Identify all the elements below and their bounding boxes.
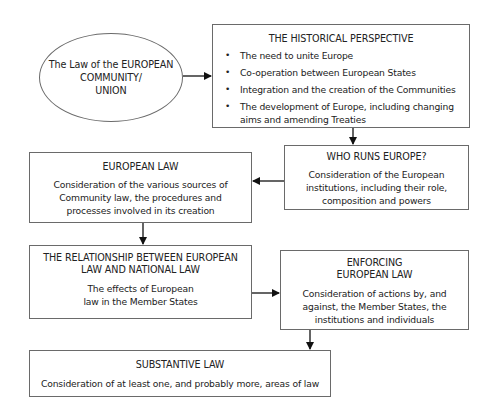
- historical-bullet-list: •The need to unite Europe •Co-operation …: [219, 49, 463, 126]
- start-text-line-3: UNION: [49, 84, 174, 97]
- substantive-title: SUBSTANTIVE LAW: [34, 359, 326, 371]
- enforcing-title-line-2: EUROPEAN LAW: [285, 269, 464, 281]
- bullet-icon: •: [225, 49, 230, 62]
- european-law-box: EUROPEAN LAW Consideration of the variou…: [29, 152, 252, 223]
- start-ellipse-node: The Law of the EUROPEAN COMMUNITY/ UNION: [39, 33, 183, 122]
- relationship-title: THE RELATIONSHIP BETWEEN EUROPEAN LAW AN…: [32, 252, 249, 276]
- start-text-line-2: COMMUNITY/: [49, 71, 174, 84]
- bullet-icon: •: [225, 66, 230, 79]
- european-law-title: EUROPEAN LAW: [34, 161, 247, 173]
- start-text-line-1: The Law of the EUROPEAN: [49, 58, 174, 71]
- bullet-icon: •: [225, 83, 230, 96]
- bullet-icon: •: [225, 100, 230, 113]
- relationship-body: The effects of European law in the Membe…: [32, 282, 249, 308]
- historical-perspective-box: THE HISTORICAL PERSPECTIVE •The need to …: [212, 24, 470, 128]
- historical-title: THE HISTORICAL PERSPECTIVE: [219, 33, 463, 45]
- bullet-item: •Integration and the creation of the Com…: [219, 83, 463, 96]
- substantive-body: Consideration of at least one, and proba…: [34, 377, 326, 390]
- enforcing-body: Consideration of actions by, and against…: [285, 287, 464, 326]
- substantive-law-box: SUBSTANTIVE LAW Consideration of at leas…: [29, 350, 331, 397]
- bullet-item: •The development of Europe, including ch…: [219, 100, 463, 126]
- european-law-body: Consideration of the various sources of …: [34, 178, 247, 217]
- who-runs-title: WHO RUNS EUROPE?: [291, 151, 462, 163]
- who-runs-body: Consideration of the European institutio…: [291, 168, 462, 207]
- enforcing-european-law-box: ENFORCING EUROPEAN LAW Consideration of …: [280, 250, 469, 330]
- who-runs-europe-box: WHO RUNS EUROPE? Consideration of the Eu…: [284, 145, 469, 210]
- enforcing-title-line-1: ENFORCING: [285, 257, 464, 269]
- relationship-box: THE RELATIONSHIP BETWEEN EUROPEAN LAW AN…: [29, 245, 252, 319]
- bullet-item: •Co-operation between European States: [219, 66, 463, 79]
- bullet-item: •The need to unite Europe: [219, 49, 463, 62]
